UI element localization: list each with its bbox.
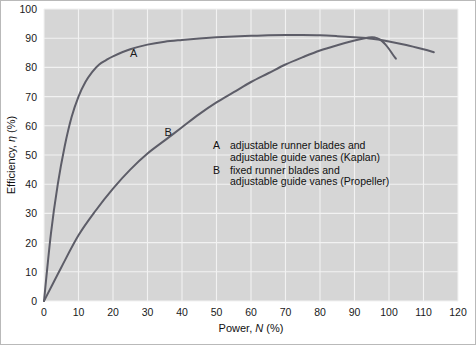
y-tick-label-50: 50 (25, 149, 37, 161)
y-tick-label-0: 0 (31, 295, 37, 307)
legend-text-A-line1: adjustable runner blades and (230, 139, 366, 151)
y-tick-label-30: 30 (25, 207, 37, 219)
x-tick-label-40: 40 (176, 306, 188, 318)
legend-text-B-line2: adjustable guide vanes (Propeller) (230, 175, 389, 187)
x-tick-labels: 0102030405060708090100110120 (41, 306, 467, 318)
y-axis-title: Efficiency, η (%) (5, 116, 17, 194)
y-tick-label-80: 80 (25, 61, 37, 73)
curve-label-A: A (130, 47, 138, 59)
y-tick-label-90: 90 (25, 32, 37, 44)
y-tick-labels: 0102030405060708090100 (19, 3, 37, 307)
x-tick-label-120: 120 (449, 306, 467, 318)
legend-text-B-line1: fixed runner blades and (230, 164, 340, 176)
x-axis-title: Power, N (%) (219, 322, 284, 334)
y-axis-symbol: η (5, 136, 17, 142)
y-tick-label-60: 60 (25, 120, 37, 132)
y-tick-label-100: 100 (19, 3, 37, 15)
legend-key-B: B (213, 164, 220, 176)
x-tick-label-30: 30 (142, 306, 154, 318)
x-tick-label-0: 0 (41, 306, 47, 318)
x-tick-label-100: 100 (380, 306, 398, 318)
x-tick-label-60: 60 (245, 306, 257, 318)
y-tick-label-70: 70 (25, 91, 37, 103)
curve-label-B: B (165, 126, 172, 138)
chart-canvas: 0102030405060708090100110120 01020304050… (1, 1, 476, 345)
x-tick-label-20: 20 (107, 306, 119, 318)
x-tick-label-10: 10 (73, 306, 85, 318)
legend-text-A-line2: adjustable guide vanes (Kaplan) (230, 151, 380, 163)
x-tick-label-80: 80 (314, 306, 326, 318)
x-tick-label-70: 70 (280, 306, 292, 318)
x-axis-symbol: N (255, 322, 263, 334)
efficiency-power-chart: 0102030405060708090100110120 01020304050… (0, 0, 476, 345)
y-tick-label-40: 40 (25, 178, 37, 190)
y-tick-label-10: 10 (25, 266, 37, 278)
x-tick-label-50: 50 (211, 306, 223, 318)
x-tick-label-110: 110 (415, 306, 432, 318)
x-tick-label-90: 90 (349, 306, 361, 318)
y-tick-label-20: 20 (25, 237, 37, 249)
legend-key-A: A (213, 139, 220, 151)
